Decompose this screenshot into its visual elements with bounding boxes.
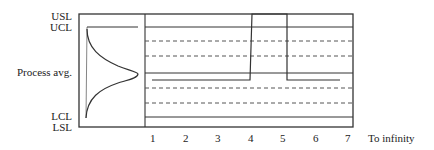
x-tick-3: 3: [215, 133, 221, 144]
x-tick-infinity: To infinity: [368, 133, 415, 144]
x-tick-4: 4: [248, 133, 254, 144]
x-tick-1: 1: [150, 133, 156, 144]
dist-axis: [86, 27, 87, 118]
ucl-label: UCL: [0, 22, 72, 33]
x-tick-7: 7: [345, 133, 351, 144]
chart-frame: [79, 14, 353, 127]
process-run-line: [152, 14, 340, 80]
x-tick-2: 2: [183, 133, 189, 144]
lsl-label: LSL: [0, 122, 72, 133]
x-tick-6: 6: [313, 133, 319, 144]
process-avg-label: Process avg.: [0, 67, 72, 78]
x-tick-5: 5: [280, 133, 286, 144]
normal-distribution-curve: [86, 29, 138, 118]
